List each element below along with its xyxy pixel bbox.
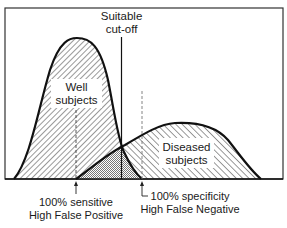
well-label-line2: subjects <box>55 94 97 106</box>
right-annotation-line2: High False Negative <box>140 203 239 215</box>
diseased-label-line2: subjects <box>165 154 207 166</box>
specificity-arrow-icon <box>140 181 148 196</box>
diseased-label-line1: Diseased <box>163 141 211 153</box>
sensitivity-arrow-icon <box>74 181 78 194</box>
cutoff-label-line1: Suitable <box>101 10 143 22</box>
well-label-line1: Well <box>65 81 87 93</box>
left-annotation-line2: High False Positive <box>29 209 123 221</box>
right-annotation-line1: 100% specificity <box>151 190 230 202</box>
cutoff-label-line2: cut-off <box>106 23 139 35</box>
left-annotation-line1: 100% sensitive <box>39 196 113 208</box>
diagram-canvas: Suitable cut-off Well subjects Diseased … <box>0 0 287 228</box>
